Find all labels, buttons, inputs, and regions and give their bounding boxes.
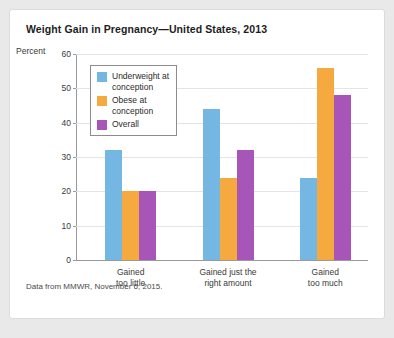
bar[interactable] xyxy=(334,95,351,260)
y-tick-mark xyxy=(73,123,76,124)
bar[interactable] xyxy=(203,109,220,260)
y-tick-label: 20 xyxy=(62,186,71,196)
y-tick-label: 40 xyxy=(62,118,71,128)
bar[interactable] xyxy=(220,178,237,260)
bar-group xyxy=(300,53,351,260)
legend-label-obese: Obese at conception xyxy=(112,95,153,116)
y-tick-mark xyxy=(73,157,76,158)
x-tick-label: Gained too much xyxy=(308,267,343,289)
bar[interactable] xyxy=(139,191,156,260)
chart-card: Weight Gain in Pregnancy—United States, … xyxy=(9,9,385,319)
bar[interactable] xyxy=(105,150,122,260)
legend-item-obese: Obese at conception xyxy=(97,95,169,116)
legend-swatch-underweight xyxy=(97,72,107,82)
y-tick-label: 0 xyxy=(66,255,71,265)
y-tick-mark xyxy=(73,226,76,227)
bar-group xyxy=(203,53,254,260)
bar[interactable] xyxy=(122,191,139,260)
y-axis-title: Percent xyxy=(16,46,45,56)
legend-item-overall: Overall xyxy=(97,119,169,130)
y-tick-label: 50 xyxy=(62,83,71,93)
legend-swatch-overall xyxy=(97,120,107,130)
plot-area: 0102030405060Gained too littleGained jus… xyxy=(76,54,368,261)
x-tick-label: Gained just the right amount xyxy=(199,267,256,289)
bar[interactable] xyxy=(237,150,254,260)
y-tick-mark xyxy=(73,54,76,55)
source-note: Data from MMWR, November 6, 2015. xyxy=(26,282,162,291)
y-tick-mark xyxy=(73,260,76,261)
legend-item-underweight: Underweight at conception xyxy=(97,71,169,92)
legend-label-underweight: Underweight at conception xyxy=(112,71,169,92)
y-tick-mark xyxy=(73,191,76,192)
chart-legend: Underweight at conception Obese at conce… xyxy=(90,65,177,136)
bar[interactable] xyxy=(317,68,334,260)
legend-label-overall: Overall xyxy=(112,119,139,130)
y-tick-label: 30 xyxy=(62,152,71,162)
chart-title: Weight Gain in Pregnancy—United States, … xyxy=(26,23,267,35)
y-tick-mark xyxy=(73,88,76,89)
bar[interactable] xyxy=(300,178,317,260)
y-tick-label: 60 xyxy=(62,49,71,59)
legend-swatch-obese xyxy=(97,96,107,106)
y-tick-label: 10 xyxy=(62,221,71,231)
x-axis-line xyxy=(76,260,368,261)
